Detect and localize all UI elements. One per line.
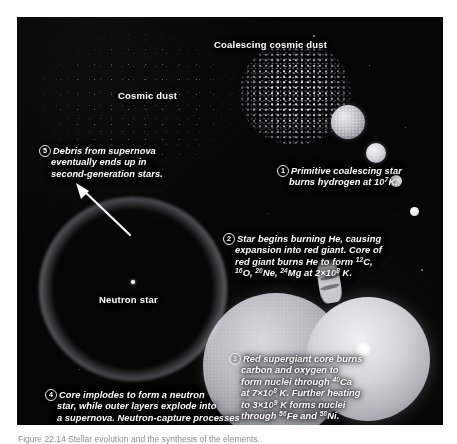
- callout-3-line-4: at 7×108 K. Further heating: [229, 388, 427, 400]
- callout-5-number: 5: [39, 145, 51, 157]
- protostar-medium-sphere: [366, 143, 386, 163]
- callout-4-number: 4: [45, 389, 57, 401]
- space-scene-panel: Coalescing cosmic dust Cosmic dust Neutr…: [17, 17, 443, 425]
- callout-3: 3Red supergiant core burns carbon and ox…: [229, 353, 427, 423]
- callout-1-number: 1: [277, 165, 289, 177]
- background-star: [369, 65, 370, 66]
- callout-3-line-3: form nuclei through 40Ca: [229, 377, 427, 389]
- callout-3-line-2: carbon and oxygen to: [229, 365, 427, 377]
- label-neutron-star: Neutron star: [99, 294, 158, 305]
- label-cosmic-dust: Cosmic dust: [118, 90, 177, 101]
- callout-3-line-5: to 3×109 K forms nuclei: [229, 400, 427, 412]
- neutron-star-point: [131, 280, 135, 284]
- callout-2-line-4: 16O, 20Ne, 24Mg at 2×108 K.: [223, 268, 431, 280]
- callout-3-line-1: Red supergiant core burns: [243, 354, 363, 364]
- background-star: [79, 369, 80, 370]
- callout-5: 5Debris from supernova eventually ends u…: [39, 145, 199, 180]
- callout-4-line-3: a supernova. Neutron-capture processes: [45, 413, 251, 425]
- callout-5-line-1: Debris from supernova: [53, 146, 156, 156]
- debris-arrow-icon: [72, 183, 142, 239]
- callout-4-line-4: form heavier nuclei.: [45, 424, 251, 425]
- callout-3-number: 3: [229, 353, 241, 365]
- background-star: [267, 213, 268, 214]
- callout-2-line-2: expansion into red giant. Core of: [223, 245, 431, 257]
- callout-2-number: 2: [223, 233, 235, 245]
- callout-2-line-1: Star begins burning He, causing: [237, 234, 381, 244]
- callout-4: 4Core implodes to form a neutron star, w…: [45, 389, 251, 425]
- protostar-large-sphere: [331, 105, 365, 139]
- callout-4-line-1: Core implodes to form a neutron: [59, 390, 205, 400]
- callout-5-line-2: eventually ends up in: [39, 157, 199, 169]
- background-star: [405, 127, 406, 128]
- callout-1-line-2: burns hydrogen at 107K.: [277, 177, 427, 189]
- figure-caption: Figure 22.14 Stellar evolution and the s…: [18, 434, 438, 444]
- callout-5-line-3: second-generation stars.: [39, 169, 199, 181]
- callout-1: 1Primitive coalescing star burns hydroge…: [277, 165, 427, 189]
- background-star: [313, 35, 315, 37]
- callout-4-line-2: star, while outer layers explode into: [45, 401, 251, 413]
- callout-2: 2Star begins burning He, causing expansi…: [223, 233, 431, 280]
- label-coalescing-cosmic-dust: Coalescing cosmic dust: [214, 39, 327, 50]
- callout-1-line-1: Primitive coalescing star: [291, 166, 402, 176]
- callout-3-line-6: through 56Fe and 58Ni.: [229, 411, 427, 423]
- stellar-nucleosynthesis-figure: Coalescing cosmic dust Cosmic dust Neutr…: [0, 0, 457, 444]
- protostar-tiny-sphere: [410, 207, 419, 216]
